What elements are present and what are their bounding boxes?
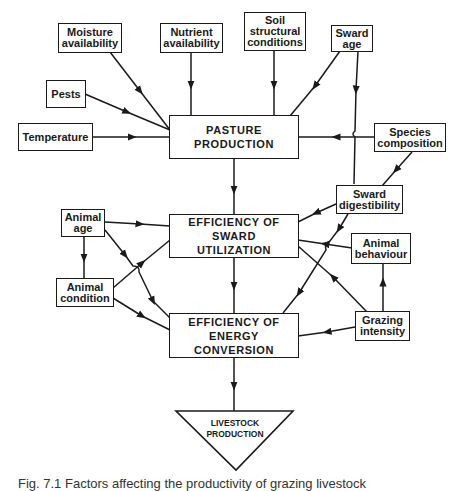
node-animal-condition: Animal condition (56, 278, 114, 307)
node-livestock-production: LIVESTOCK PRODUCTION (205, 418, 265, 440)
figure-caption: Fig. 7.1 Factors affecting the productiv… (18, 476, 366, 491)
node-animal-age: Animal age (61, 209, 105, 237)
node-soil-structural-conditions: Soil structural conditions (244, 12, 306, 51)
node-pests: Pests (46, 80, 86, 108)
node-temperature: Temperature (18, 123, 93, 151)
node-nutrient-availability: Nutrient availability (160, 23, 223, 53)
node-efficiency-sward-utilization: EFFICIENCY OF SWARD UTILIZATION (169, 214, 299, 258)
node-animal-behaviour: Animal behaviour (351, 233, 411, 264)
node-sward-digestibility: Sward digestibility (336, 185, 403, 214)
node-pasture-production: PASTURE PRODUCTION (169, 115, 299, 159)
node-moisture-availability: Moisture availability (58, 23, 122, 53)
node-species-composition: Species composition (374, 123, 446, 152)
node-efficiency-energy-conversion: EFFICIENCY OF ENERGY CONVERSION (169, 313, 299, 358)
node-sward-age: Sward age (331, 25, 373, 52)
node-grazing-intensity: Grazing intensity (355, 311, 410, 341)
